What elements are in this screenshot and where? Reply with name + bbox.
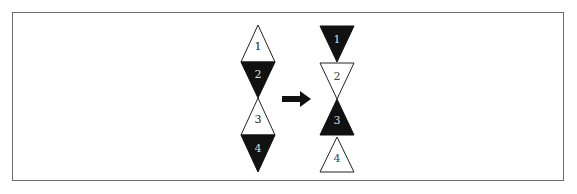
left-triangle-1: 1 xyxy=(241,25,275,62)
right-triangle-2-label: 2 xyxy=(334,70,341,83)
right-triangle-1: 1 xyxy=(320,26,354,62)
triangle-diagram: 1 2 3 4 1 2 3 xyxy=(0,0,577,194)
right-triangle-4: 4 xyxy=(320,137,354,172)
left-triangle-3: 3 xyxy=(241,98,275,135)
right-triangle-4-label: 4 xyxy=(334,152,341,165)
left-triangle-4-label: 4 xyxy=(255,142,262,155)
right-triangle-1-label: 1 xyxy=(334,33,341,46)
left-triangle-3-label: 3 xyxy=(255,113,262,126)
left-triangle-4: 4 xyxy=(241,135,275,172)
left-triangle-1-label: 1 xyxy=(255,40,262,53)
right-triangle-3: 3 xyxy=(320,99,354,135)
right-triangle-2: 2 xyxy=(320,63,354,99)
left-triangle-2: 2 xyxy=(241,62,275,98)
right-arrow-icon xyxy=(282,91,311,107)
right-triangle-3-label: 3 xyxy=(334,114,341,127)
left-stack: 1 2 3 4 xyxy=(241,25,275,172)
left-triangle-2-label: 2 xyxy=(255,68,262,81)
right-stack: 1 2 3 4 xyxy=(320,26,354,172)
